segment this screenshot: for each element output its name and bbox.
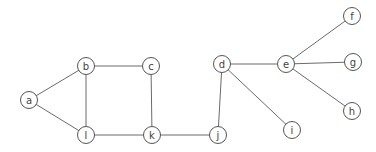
edge-e-h	[286, 64, 352, 111]
edge-c-k	[151, 66, 152, 135]
node-label: j	[216, 130, 220, 141]
edge-e-f	[286, 16, 352, 64]
node-label: k	[149, 130, 155, 141]
edge-e-g	[286, 62, 353, 64]
node-label: d	[219, 59, 225, 70]
node-label: b	[83, 61, 89, 72]
node-label: e	[283, 59, 289, 70]
node-label: a	[26, 95, 32, 106]
edge-j-d	[218, 64, 222, 135]
node-i: i	[284, 122, 301, 139]
node-b: b	[78, 58, 95, 75]
edge-a-b	[29, 66, 86, 100]
node-h: h	[344, 103, 361, 120]
node-label: h	[349, 106, 355, 117]
edge-a-l	[29, 100, 86, 135]
node-label: i	[291, 125, 294, 136]
graph-diagram: abclkjdeifgh	[0, 0, 376, 152]
node-label: c	[148, 61, 154, 72]
edge-d-i	[222, 64, 292, 130]
nodes-group: abclkjdeifgh	[21, 8, 362, 144]
node-d: d	[214, 56, 231, 73]
node-c: c	[143, 58, 160, 75]
node-g: g	[345, 54, 362, 71]
edges-group	[29, 16, 353, 135]
node-j: j	[210, 127, 227, 144]
node-label: l	[85, 130, 88, 141]
node-f: f	[344, 8, 361, 25]
node-l: l	[78, 127, 95, 144]
node-k: k	[144, 127, 161, 144]
node-e: e	[278, 56, 295, 73]
node-label: g	[350, 57, 356, 68]
node-label: f	[350, 11, 354, 22]
node-a: a	[21, 92, 38, 109]
